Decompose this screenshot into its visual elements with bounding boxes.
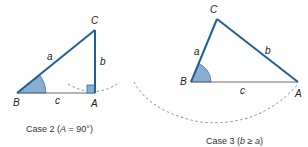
case3-label-C: C (210, 4, 218, 15)
ambiguous-case-diagram: C a b B c A Case 2 (A = 90°) C a b B c A… (0, 0, 308, 147)
case2-side-a (17, 30, 95, 93)
case3-caption: Case 3 (b ≥ a) (206, 136, 263, 146)
case2-right-angle-marker (87, 85, 95, 93)
case2-label-C: C (91, 15, 99, 26)
case3-label-A: A (294, 88, 302, 99)
case3-dashed-arc (134, 82, 298, 123)
case3-side-b (217, 19, 298, 82)
case3-figure: C a b B c A Case 3 (b ≥ a) (134, 4, 302, 146)
case3-label-b: b (265, 45, 271, 56)
case3-label-a: a (194, 46, 200, 57)
case2-label-c: c (55, 95, 60, 106)
case2-label-A: A (90, 98, 98, 109)
case3-label-B: B (180, 76, 187, 87)
case2-label-b: b (100, 56, 106, 67)
case2-caption: Case 2 (A = 90°) (26, 124, 93, 134)
case2-label-a: a (47, 51, 53, 62)
case3-label-c: c (240, 85, 245, 96)
case2-label-B: B (13, 97, 20, 108)
case2-figure: C a b B c A Case 2 (A = 90°) (13, 15, 120, 134)
